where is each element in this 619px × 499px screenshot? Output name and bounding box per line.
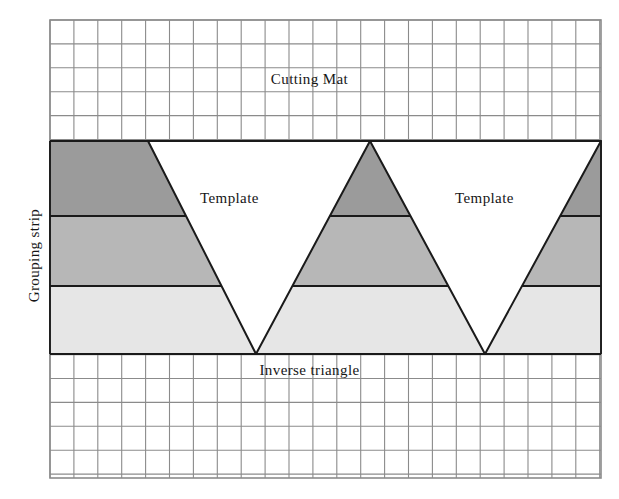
grouping-strip-label: Grouping strip [26, 146, 43, 366]
cutting-mat-diagram: Cutting Mat Inverse triangle Template Te… [0, 0, 619, 499]
strip-band-middle-band-light [256, 286, 485, 354]
template-label-right: Template [455, 190, 514, 207]
cutting-mat-label: Cutting Mat [0, 71, 619, 88]
template-label-left: Template [200, 190, 259, 207]
inverse-triangle-label: Inverse triangle [0, 362, 619, 379]
strip-band-left-band-light [50, 286, 256, 354]
